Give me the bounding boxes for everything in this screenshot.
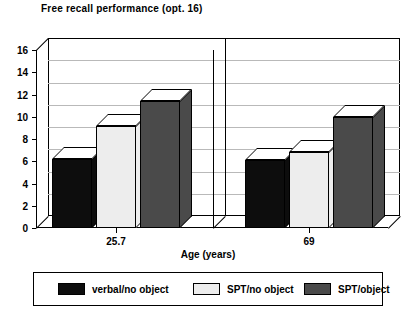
group-divider-back <box>225 38 226 216</box>
bar-front-face <box>289 152 329 228</box>
y-axis-tick <box>32 72 36 73</box>
bar-verbal-no-object-69 <box>245 148 285 228</box>
bar-side-face <box>180 89 192 228</box>
x-axis-tick <box>309 228 310 233</box>
y-axis-tick <box>32 184 36 185</box>
bar-front-face <box>333 117 373 228</box>
depth-edge-bottom-right <box>388 216 401 229</box>
y-axis-tick-label: 8 <box>2 134 28 145</box>
legend-item[interactable]: verbal/no object <box>58 283 169 295</box>
legend-swatch-spt-object <box>304 283 331 295</box>
bar-front-face <box>96 126 136 228</box>
bar-front-face <box>140 101 180 228</box>
y-axis-tick-label: 12 <box>2 89 28 100</box>
gridline <box>48 83 400 84</box>
chart-legend: verbal/no objectSPT/no objectSPT/object <box>33 272 383 306</box>
y-axis-tick-label: 14 <box>2 67 28 78</box>
bar-front-face <box>52 159 92 228</box>
bar-front-face <box>245 160 285 228</box>
x-axis-tick-label: 69 <box>303 236 314 247</box>
x-axis-tick <box>116 228 117 233</box>
y-axis-tick-label: 6 <box>2 156 28 167</box>
bar-spt-object-69 <box>333 105 373 228</box>
bar-spt-no-object-25.7 <box>96 114 136 228</box>
y-axis-tick <box>32 139 36 140</box>
gridline <box>48 60 400 61</box>
legend-label: SPT/object <box>338 284 390 295</box>
bar-side-face <box>373 105 385 228</box>
legend-swatch-verbal-no-object <box>58 283 85 295</box>
legend-label: verbal/no object <box>92 284 169 295</box>
y-axis-tick <box>32 117 36 118</box>
chart-root: Free recall performance (opt. 16) 024681… <box>0 0 416 317</box>
y-axis-tick <box>32 95 36 96</box>
y-axis-tick-label: 2 <box>2 200 28 211</box>
legend-label: SPT/no object <box>227 284 294 295</box>
x-axis-tick-label: 25.7 <box>106 236 125 247</box>
bar-verbal-no-object-25.7 <box>52 147 92 228</box>
legend-item[interactable]: SPT/object <box>304 283 390 295</box>
group-divider <box>213 50 214 228</box>
x-axis-title: Age (years) <box>0 249 416 260</box>
y-axis-tick-label: 16 <box>2 45 28 56</box>
legend-swatch-spt-no-object <box>193 283 220 295</box>
y-axis-tick <box>32 161 36 162</box>
y-axis-tick-label: 0 <box>2 223 28 234</box>
depth-edge-top-left <box>36 38 49 51</box>
y-axis-tick <box>32 228 36 229</box>
y-axis-tick-label: 4 <box>2 178 28 189</box>
bar-spt-no-object-69 <box>289 140 329 228</box>
y-axis-tick <box>32 50 36 51</box>
plot-area: 0246810121416 25.769 Age (years) <box>0 0 416 260</box>
legend-item[interactable]: SPT/no object <box>193 283 294 295</box>
y-axis-tick-label: 10 <box>2 111 28 122</box>
bar-spt-object-25.7 <box>140 89 180 228</box>
y-axis-tick <box>32 206 36 207</box>
